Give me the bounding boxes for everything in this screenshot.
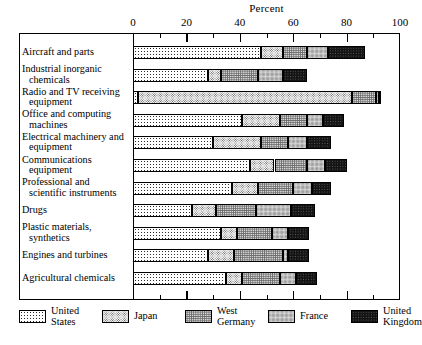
bar-segment: [133, 272, 226, 285]
x-tick-bottom-50: [267, 295, 268, 300]
bar-row: [0, 69, 417, 82]
bar-segment: [283, 46, 307, 59]
bar-segment: [312, 182, 331, 195]
x-tick-label-20: 20: [181, 16, 192, 28]
x-tick-bottom-30: [213, 295, 214, 300]
bar-segment: [258, 69, 282, 82]
bar-segment: [232, 182, 259, 195]
x-tick-label-0: 0: [130, 16, 136, 28]
bar-segment: [237, 227, 272, 240]
bar-segment: [288, 136, 307, 149]
bar-row: [0, 46, 417, 59]
legend-label: UnitedStates: [51, 306, 79, 327]
x-tick-bottom-40: [240, 291, 241, 300]
legend-label: UnitedKingdom: [383, 306, 422, 327]
bar-segment: [216, 204, 256, 217]
x-tick-top-90: [373, 33, 374, 38]
legend-label: WestGermany: [217, 306, 255, 327]
x-tick-bottom-10: [160, 295, 161, 300]
x-tick-top-50: [267, 33, 268, 38]
bar-row: [0, 227, 417, 240]
legend-swatch-icon: [351, 310, 378, 323]
bar-segment: [307, 114, 323, 127]
bar-segment: [133, 249, 208, 262]
x-tick-bottom-70: [320, 295, 321, 300]
x-axis-title: Percent: [133, 2, 400, 14]
x-tick-top-30: [213, 33, 214, 38]
bar-segment: [226, 272, 242, 285]
x-tick-bottom-60: [293, 291, 294, 300]
x-tick-top-20: [186, 33, 187, 42]
bar-segment: [293, 182, 312, 195]
x-tick-top-40: [240, 33, 241, 42]
bar-segment: [296, 272, 317, 285]
bar-segment: [307, 136, 331, 149]
bar-segment: [379, 91, 382, 104]
bar-row: [0, 204, 417, 217]
bar-row: [0, 272, 417, 285]
bar-segment: [256, 204, 291, 217]
bar-row: [0, 182, 417, 195]
bar-segment: [138, 91, 352, 104]
x-tick-top-70: [320, 33, 321, 38]
x-tick-top-80: [347, 33, 348, 42]
bar-segment: [272, 227, 288, 240]
bar-segment: [192, 204, 216, 217]
legend-swatch-icon: [102, 310, 129, 323]
bar-segment: [288, 227, 309, 240]
bar-segment: [258, 182, 293, 195]
bar-segment: [261, 46, 282, 59]
bar-segment: [133, 204, 192, 217]
bar-segment: [133, 114, 242, 127]
bar-segment: [283, 69, 307, 82]
bar-segment: [221, 227, 237, 240]
x-tick-top-60: [293, 33, 294, 42]
bar-segment: [221, 69, 258, 82]
bar-segment: [288, 249, 309, 262]
bar-segment: [250, 159, 274, 172]
legend-label: France: [300, 311, 328, 322]
bar-segment: [133, 182, 232, 195]
legend-swatch-icon: [19, 310, 46, 323]
legend-label: Japan: [134, 311, 157, 322]
bar-segment: [280, 114, 307, 127]
bar-row: [0, 114, 417, 127]
bar-segment: [280, 272, 296, 285]
bar-row: [0, 249, 417, 262]
x-tick-bottom-80: [347, 291, 348, 300]
bar-segment: [133, 227, 221, 240]
x-tick-bottom-20: [186, 291, 187, 300]
bar-segment: [307, 46, 328, 59]
bar-segment: [242, 272, 279, 285]
bar-segment: [325, 159, 346, 172]
legend-swatch-icon: [185, 310, 212, 323]
bar-segment: [307, 159, 326, 172]
bar-segment: [133, 159, 250, 172]
bar-segment: [352, 91, 376, 104]
bar-row: [0, 159, 417, 172]
bar-segment: [328, 46, 365, 59]
bar-segment: [213, 136, 261, 149]
bar-segment: [261, 136, 288, 149]
bar-row: [0, 91, 417, 104]
legend-swatch-icon: [268, 310, 295, 323]
bar-segment: [242, 114, 279, 127]
bar-segment: [133, 136, 213, 149]
bar-segment: [133, 46, 261, 59]
bar-segment: [275, 159, 307, 172]
bar-segment: [133, 69, 208, 82]
bar-segment: [323, 114, 344, 127]
x-tick-label-40: 40: [234, 16, 245, 28]
x-axis-tick-labels: 020406080100: [0, 16, 417, 30]
bar-segment: [208, 249, 235, 262]
legend: UnitedStatesJapanWestGermanyFranceUnited…: [19, 307, 411, 341]
x-tick-label-80: 80: [341, 16, 352, 28]
x-tick-bottom-90: [373, 295, 374, 300]
bar-segment: [234, 249, 282, 262]
bar-row: [0, 136, 417, 149]
bar-segment: [208, 69, 221, 82]
x-tick-label-100: 100: [392, 16, 409, 28]
x-tick-label-60: 60: [288, 16, 299, 28]
bar-segment: [291, 204, 315, 217]
